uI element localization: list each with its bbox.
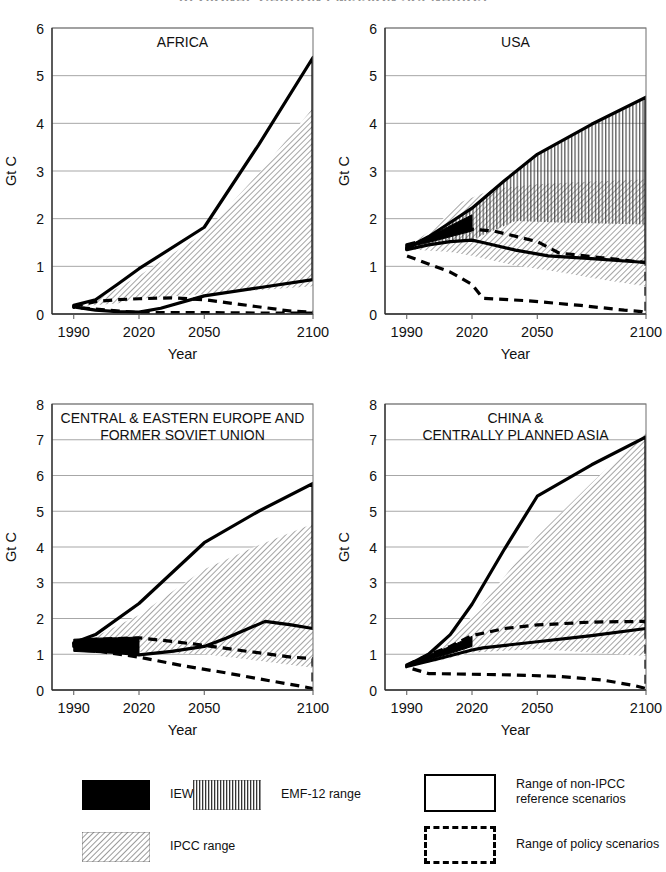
y-tick-label: 6 bbox=[369, 21, 377, 37]
y-tick-label: 6 bbox=[36, 21, 44, 37]
y-tick-label: 0 bbox=[369, 683, 377, 699]
y-tick-label: 2 bbox=[369, 611, 377, 627]
y-tick-label: 1 bbox=[369, 647, 377, 663]
legend-label-policy: Range of policy scenarios bbox=[516, 837, 659, 852]
y-tick-label: 6 bbox=[369, 468, 377, 484]
y-tick-label: 6 bbox=[36, 468, 44, 484]
x-tick-label: 2050 bbox=[521, 700, 553, 716]
x-tick-label: 2050 bbox=[521, 324, 553, 340]
legend-swatch-non-ipcc bbox=[424, 774, 496, 812]
y-tick-label: 0 bbox=[36, 307, 44, 323]
panel-title: USA bbox=[501, 34, 530, 50]
y-tick-label: 8 bbox=[369, 397, 377, 413]
y-tick-label: 5 bbox=[36, 504, 44, 520]
legend-item-emf12: EMF-12 range bbox=[193, 780, 433, 812]
x-tick-label: 1990 bbox=[58, 700, 90, 716]
y-tick-label: 3 bbox=[369, 164, 377, 180]
x-tick-label: 2050 bbox=[188, 700, 220, 716]
x-tick-label: 2100 bbox=[630, 700, 662, 716]
y-tick-label: 5 bbox=[369, 68, 377, 84]
y-tick-label: 2 bbox=[369, 211, 377, 227]
legend-label-non-ipcc: Range of non-IPCC reference scenarios bbox=[516, 777, 626, 807]
x-tick-label: 2100 bbox=[297, 700, 329, 716]
x-axis-label: Year bbox=[168, 722, 197, 738]
panel-usa: 01234561990202020502100YearGt CUSA bbox=[333, 14, 666, 390]
legend-item-non-ipcc: Range of non-IPCC reference scenarios bbox=[424, 774, 664, 814]
y-axis-label: Gt C bbox=[3, 532, 19, 562]
y-axis-label: Gt C bbox=[336, 532, 352, 562]
legend-swatch-emf12 bbox=[193, 780, 261, 810]
legend-label-emf12: EMF-12 range bbox=[281, 787, 361, 802]
panel-title: AFRICA bbox=[157, 34, 209, 50]
x-tick-label: 2020 bbox=[123, 324, 155, 340]
chart-china_cpa: 0123456781990202020502100YearGt CCHINA &… bbox=[333, 390, 666, 766]
x-axis-label: Year bbox=[501, 722, 530, 738]
figure-root: REGIONAL CARBON EMISSION SCENARIOS 01234… bbox=[0, 0, 666, 872]
legend-swatch-iew bbox=[82, 780, 150, 810]
y-tick-label: 2 bbox=[36, 611, 44, 627]
legend-item-ipcc: IPCC range bbox=[82, 832, 312, 864]
figure-title: REGIONAL CARBON EMISSION SCENARIOS bbox=[0, 0, 666, 1]
y-tick-label: 5 bbox=[369, 504, 377, 520]
x-axis-label: Year bbox=[168, 346, 197, 362]
legend-item-policy: Range of policy scenarios bbox=[424, 826, 664, 866]
y-tick-label: 1 bbox=[369, 259, 377, 275]
y-tick-label: 3 bbox=[369, 575, 377, 591]
x-tick-label: 2100 bbox=[630, 324, 662, 340]
y-tick-label: 4 bbox=[36, 116, 44, 132]
panel-china-cpa: 0123456781990202020502100YearGt CCHINA &… bbox=[333, 390, 666, 766]
panel-ceeu-fsu: 0123456781990202020502100YearGt CCENTRAL… bbox=[0, 390, 333, 766]
y-tick-label: 1 bbox=[36, 259, 44, 275]
x-tick-label: 2020 bbox=[123, 700, 155, 716]
y-tick-label: 7 bbox=[369, 432, 377, 448]
panel-africa: 01234561990202020502100YearGt CAFRICA bbox=[0, 14, 333, 390]
y-axis-label: Gt C bbox=[3, 156, 19, 186]
y-tick-label: 3 bbox=[36, 164, 44, 180]
legend-label-ipcc: IPCC range bbox=[170, 839, 235, 854]
y-tick-label: 0 bbox=[36, 683, 44, 699]
chart-ceeu_fsu: 0123456781990202020502100YearGt CCENTRAL… bbox=[0, 390, 333, 766]
x-axis-label: Year bbox=[501, 346, 530, 362]
legend-swatch-ipcc bbox=[82, 832, 150, 862]
figure-legend: IEW range EMF-12 range bbox=[0, 772, 666, 872]
y-tick-label: 7 bbox=[36, 432, 44, 448]
y-axis-label: Gt C bbox=[336, 156, 352, 186]
y-tick-label: 0 bbox=[369, 307, 377, 323]
y-tick-label: 8 bbox=[36, 397, 44, 413]
x-tick-label: 1990 bbox=[391, 324, 423, 340]
y-tick-label: 1 bbox=[36, 647, 44, 663]
y-tick-label: 3 bbox=[36, 575, 44, 591]
y-tick-label: 5 bbox=[36, 68, 44, 84]
x-tick-label: 2100 bbox=[297, 324, 329, 340]
chart-usa: 01234561990202020502100YearGt CUSA bbox=[333, 14, 666, 390]
x-tick-label: 1990 bbox=[391, 700, 423, 716]
y-tick-label: 4 bbox=[36, 540, 44, 556]
y-tick-label: 2 bbox=[36, 211, 44, 227]
x-tick-label: 2050 bbox=[188, 324, 220, 340]
x-tick-label: 2020 bbox=[456, 324, 488, 340]
x-tick-label: 1990 bbox=[58, 324, 90, 340]
y-tick-label: 4 bbox=[369, 116, 377, 132]
legend-swatch-policy bbox=[424, 826, 496, 864]
y-tick-label: 4 bbox=[369, 540, 377, 556]
chart-africa: 01234561990202020502100YearGt CAFRICA bbox=[0, 14, 333, 390]
x-tick-label: 2020 bbox=[456, 700, 488, 716]
